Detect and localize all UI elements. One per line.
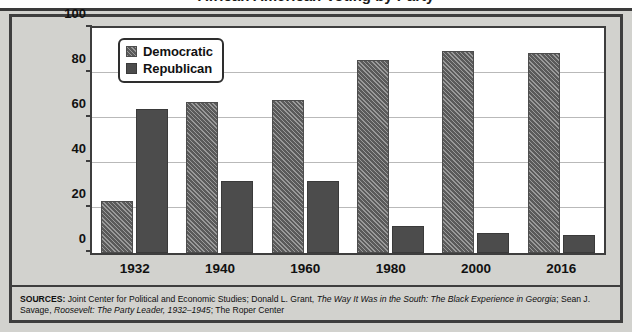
chart-figure: African American Voting by Party Percent… xyxy=(0,0,632,332)
bar-democratic-1980 xyxy=(357,60,389,254)
bar-democratic-1940 xyxy=(186,102,218,253)
sources-divider-rule xyxy=(12,285,620,287)
y-tick-label-40: 40 xyxy=(72,141,86,156)
x-tick-label-1960: 1960 xyxy=(263,261,348,276)
y-tick-label-0: 0 xyxy=(79,231,86,246)
x-tick-label-1980: 1980 xyxy=(348,261,433,276)
y-tick-label-100: 100 xyxy=(64,6,86,21)
bar-republican-1932 xyxy=(136,109,168,253)
sources-italic-title-2a: Roosevelt: xyxy=(54,305,97,315)
legend-item-democratic: Democratic xyxy=(126,43,213,60)
plot-area: 020406080100 193219401960198020002016 De… xyxy=(90,26,606,255)
chart-title-cropped: African American Voting by Party xyxy=(0,0,632,8)
chart-panel: Percentage of African Americans who vote… xyxy=(9,14,623,323)
bar-democratic-2000 xyxy=(442,51,474,254)
chart-title-text: African American Voting by Party xyxy=(0,0,632,4)
x-tick-label-1932: 1932 xyxy=(92,261,177,276)
legend-label-republican: Republican xyxy=(143,61,212,76)
bar-republican-1960 xyxy=(307,181,339,253)
bar-group-2000: 2000 xyxy=(433,28,518,253)
legend-swatch-republican-icon xyxy=(126,63,137,74)
title-divider-rule xyxy=(0,8,632,11)
y-tick-label-60: 60 xyxy=(72,96,86,111)
legend-item-republican: Republican xyxy=(126,60,213,77)
sources-italic-title-2b: The Party Leader, 1932–1945 xyxy=(97,305,211,315)
bar-group-1960: 1960 xyxy=(263,28,348,253)
y-tick-label-80: 80 xyxy=(72,51,86,66)
x-tick-label-2000: 2000 xyxy=(433,261,518,276)
sources-italic-title-1: The Way It Was in the South: The Black E… xyxy=(317,294,556,304)
y-tick-mark-100 xyxy=(86,25,92,27)
legend-label-democratic: Democratic xyxy=(143,44,213,59)
sources-label: SOURCES: xyxy=(20,294,65,304)
bar-republican-1940 xyxy=(221,181,253,253)
bar-republican-2016 xyxy=(563,235,595,253)
y-tick-label-20: 20 xyxy=(72,186,86,201)
bar-democratic-1960 xyxy=(272,100,304,253)
x-tick-label-1940: 1940 xyxy=(177,261,262,276)
bar-democratic-2016 xyxy=(528,53,560,253)
bar-republican-2000 xyxy=(477,233,509,253)
chart-legend: Democratic Republican xyxy=(118,38,224,83)
sources-text-a: Joint Center for Political and Economic … xyxy=(65,294,316,304)
sources-note: SOURCES: Joint Center for Political and … xyxy=(20,294,612,316)
bar-democratic-1932 xyxy=(101,201,133,253)
bar-group-1980: 1980 xyxy=(348,28,433,253)
x-tick-label-2016: 2016 xyxy=(519,261,604,276)
legend-swatch-democratic-icon xyxy=(126,46,137,57)
bar-group-2016: 2016 xyxy=(519,28,604,253)
bar-republican-1980 xyxy=(392,226,424,253)
sources-text-c: ; The Roper Center xyxy=(211,305,284,315)
